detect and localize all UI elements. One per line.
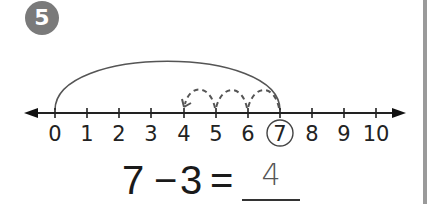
tick-label-5: 5 bbox=[209, 122, 222, 146]
tick-label-2: 2 bbox=[112, 122, 125, 146]
tick-label-4: 4 bbox=[177, 122, 190, 146]
left-arrow-icon bbox=[24, 108, 38, 118]
equals-sign: = bbox=[210, 155, 233, 205]
equation: 7 − 3 = 4 bbox=[0, 155, 430, 205]
tick-label-7: 7 bbox=[273, 122, 286, 146]
dashed-jump-arcs bbox=[185, 89, 279, 108]
solid-jump-arc-0-to-7 bbox=[55, 61, 280, 110]
dashed-arc-6-to-5 bbox=[216, 90, 247, 108]
tick-label-3: 3 bbox=[144, 122, 157, 146]
arrowhead-icon bbox=[182, 99, 191, 107]
tick-label-1: 1 bbox=[80, 122, 93, 146]
minus-operator: − bbox=[154, 155, 177, 205]
answer-value: 4 bbox=[242, 155, 300, 195]
tick-label-0: 0 bbox=[48, 122, 61, 146]
tick-label-9: 9 bbox=[337, 122, 350, 146]
number-line-diagram: 0 1 2 3 4 5 6 7 8 9 10 bbox=[0, 0, 430, 160]
minuend: 7 bbox=[122, 155, 144, 205]
tick-label-6: 6 bbox=[241, 122, 254, 146]
right-arrow-icon bbox=[392, 108, 406, 118]
subtrahend: 3 bbox=[180, 155, 202, 205]
tick-label-10: 10 bbox=[363, 122, 390, 146]
dashed-arc-5-to-4 bbox=[185, 89, 215, 108]
page-divider bbox=[423, 0, 427, 204]
answer-blank[interactable]: 4 bbox=[242, 155, 300, 201]
tick-label-8: 8 bbox=[305, 122, 318, 146]
